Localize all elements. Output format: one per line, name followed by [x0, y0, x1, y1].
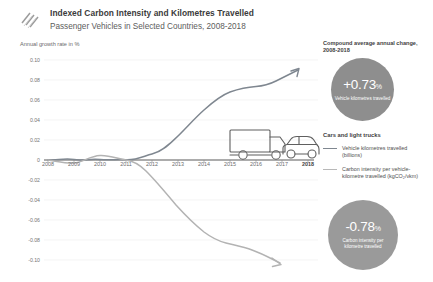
chart-header: Indexed Carbon Intensity and Kilometres …: [20, 8, 320, 36]
x-tick-label: 2014: [191, 161, 217, 167]
legend-item-vehicle-kilometres-travelled: Vehicle kilometres travelled (billions): [323, 145, 433, 159]
stat-bubble-vehicle-kilometres-travelled: +0.73% Vehicle kilometres travelled: [331, 58, 394, 121]
summary-panel: Compound average annual change, 2008-201…: [320, 40, 433, 280]
y-tick-label: -0.10: [18, 257, 40, 263]
stat-number: -0.78: [345, 219, 374, 234]
truck-icon: [230, 130, 285, 159]
stat-unit: %: [376, 83, 382, 90]
stat-caption: Vehicle kilometres travelled: [335, 96, 391, 102]
title-block: Indexed Carbon Intensity and Kilometres …: [50, 8, 254, 32]
legend-label: Carbon intensity per vehicle-kilometre t…: [342, 166, 420, 180]
y-tick-label: 0.08: [18, 77, 40, 83]
y-tick-label: -0.02: [18, 177, 40, 183]
y-tick-label: 0.04: [18, 117, 40, 123]
legend-item-carbon-intensity: Carbon intensity per vehicle-kilometre t…: [323, 166, 433, 180]
axis-note: Annual growth rate in %: [20, 41, 79, 47]
stat-unit: %: [375, 225, 381, 232]
y-tick-label: 0.02: [18, 137, 40, 143]
y-tick-label: 0.06: [18, 97, 40, 103]
stat-bubble-carbon-intensity: -0.78% Carbon intensity per kilometre tr…: [328, 200, 398, 270]
series-carbon-intensity: [48, 155, 280, 263]
x-tick-label: 2009: [61, 161, 87, 167]
legend-heading: Cars and light trucks: [323, 132, 433, 138]
stat-number: +0.73: [343, 77, 376, 92]
page-subtitle: Passenger Vehicles in Selected Countries…: [50, 21, 254, 32]
y-tick-label: -0.06: [18, 217, 40, 223]
y-tick-label: -0.04: [18, 197, 40, 203]
panel-heading: Compound average annual change, 2008-201…: [323, 40, 433, 55]
legend-label: Vehicle kilometres travelled (billions): [342, 145, 420, 159]
stat-value: -0.78%: [345, 220, 380, 236]
x-tick-label: 2013: [165, 161, 191, 167]
x-tick-label: 2008: [35, 161, 61, 167]
page-title: Indexed Carbon Intensity and Kilometres …: [50, 8, 254, 19]
y-tick-label: -0.08: [18, 237, 40, 243]
x-tick-label: 2010: [87, 161, 113, 167]
hatched-logo-mark: [20, 9, 42, 31]
vehicle-illustration: [228, 126, 320, 166]
y-tick-label: 0.10: [18, 57, 40, 63]
legend-swatch: [323, 169, 337, 170]
stat-value: +0.73%: [343, 78, 382, 94]
x-tick-label: 2012: [139, 161, 165, 167]
chart-legend: Cars and light trucks Vehicle kilometres…: [323, 132, 433, 187]
legend-swatch: [323, 148, 337, 149]
stat-caption: Carbon intensity per kilometre travelled: [334, 238, 392, 249]
x-tick-label: 2011: [113, 161, 139, 167]
car-icon: [283, 137, 319, 159]
